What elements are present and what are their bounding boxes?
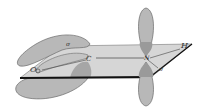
label-hydrogen: H xyxy=(181,42,188,50)
label-sigma-oxygen: σ xyxy=(66,41,70,47)
orbital-diagram: σ O C N H σ xyxy=(0,0,210,112)
label-carbon: C xyxy=(86,56,91,63)
label-nitrogen: N xyxy=(144,55,149,61)
label-oxygen: O xyxy=(30,66,37,74)
plane-front-edge xyxy=(20,77,150,78)
label-sigma-nitrogen: σ xyxy=(159,66,163,72)
orbital-diagram-svg xyxy=(0,0,210,112)
